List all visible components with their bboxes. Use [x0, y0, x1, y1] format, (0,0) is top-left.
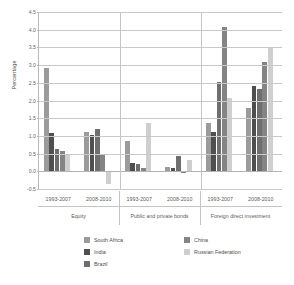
legend-label: Russian Federation	[194, 249, 241, 255]
gridline	[39, 118, 282, 119]
chart-legend: South AfricaIndiaBrazilChinaRussian Fede…	[84, 237, 274, 279]
y-axis-tick	[37, 47, 39, 48]
gridline	[39, 101, 282, 102]
period-label: 1993-2007	[200, 196, 241, 202]
plot-area: 4.54.03.53.02.52.01.51.00.50.0-0.5	[38, 12, 282, 189]
y-axis-tick	[37, 136, 39, 137]
legend-label: India	[94, 249, 106, 255]
category-labels-row: EquityPublic and private bondsForeign di…	[38, 206, 282, 225]
bar	[146, 123, 151, 171]
y-axis-tick-label: 2.0	[29, 98, 36, 103]
y-axis-tick	[37, 12, 39, 13]
bar	[106, 171, 111, 183]
legend-label: China	[194, 237, 208, 243]
period-label: 2008-2010	[79, 196, 120, 202]
y-axis-tick	[37, 101, 39, 102]
gridline	[39, 30, 282, 31]
y-axis-tick	[37, 118, 39, 119]
period-label: 2008-2010	[160, 196, 201, 202]
y-axis-tick-label: 3.0	[29, 63, 36, 68]
gridline	[39, 171, 282, 172]
bar	[136, 164, 141, 172]
bar-chart: Percentage 4.54.03.53.02.52.01.51.00.50.…	[0, 0, 294, 285]
y-axis-tick-label: 1.5	[29, 116, 36, 121]
category-label: Equity	[38, 213, 119, 219]
gridline	[39, 83, 282, 84]
bar	[84, 132, 89, 171]
bar	[217, 82, 222, 171]
legend-swatch-icon	[184, 249, 190, 255]
legend-item[interactable]: Brazil	[84, 261, 107, 267]
category-separator	[119, 207, 120, 225]
legend-swatch-icon	[84, 249, 90, 255]
y-axis-tick	[37, 65, 39, 66]
y-axis-tick	[37, 189, 39, 190]
gridline	[39, 189, 282, 190]
legend-swatch-icon	[84, 237, 90, 243]
category-separator	[120, 12, 121, 189]
bar	[65, 154, 70, 171]
y-axis-tick-label: 4.0	[29, 27, 36, 32]
category-separator	[201, 12, 202, 189]
y-axis-tick	[37, 171, 39, 172]
period-label: 1993-2007	[38, 196, 79, 202]
legend-label: South Africa	[94, 237, 123, 243]
period-label: 2008-2010	[241, 196, 282, 202]
bar	[100, 154, 105, 172]
bar	[55, 149, 60, 172]
y-axis-tick-label: 0.5	[29, 151, 36, 156]
bar	[49, 133, 54, 172]
legend-item[interactable]: China	[184, 237, 208, 243]
legend-item[interactable]: South Africa	[84, 237, 123, 243]
period-label: 1993-2007	[119, 196, 160, 202]
bar	[222, 27, 227, 171]
bar	[211, 132, 216, 171]
legend-item[interactable]: India	[84, 249, 106, 255]
legend-item[interactable]: Russian Federation	[184, 249, 241, 255]
bar	[125, 141, 130, 171]
category-label: Public and private bonds	[119, 213, 200, 219]
gridline	[39, 47, 282, 48]
bar	[262, 62, 267, 171]
y-axis-tick-label: 2.5	[29, 80, 36, 85]
category-label: Foreign direct investment	[200, 213, 281, 219]
y-axis-tick	[37, 83, 39, 84]
gridline	[39, 154, 282, 155]
bar	[206, 123, 211, 171]
y-axis-title: Percentage	[11, 25, 17, 125]
y-axis-tick	[37, 30, 39, 31]
y-axis-tick-label: 0.0	[29, 169, 36, 174]
y-axis-tick-label: 1.0	[29, 133, 36, 138]
legend-swatch-icon	[184, 237, 190, 243]
bar	[176, 156, 181, 171]
legend-swatch-icon	[84, 261, 90, 267]
y-axis-tick-label: 3.5	[29, 45, 36, 50]
legend-label: Brazil	[94, 261, 107, 267]
gridline	[39, 12, 282, 13]
bar	[246, 108, 251, 172]
gridline	[39, 136, 282, 137]
bar	[187, 160, 192, 171]
y-axis-tick-label: 4.5	[29, 10, 36, 15]
category-separator	[200, 207, 201, 225]
y-axis-tick	[37, 154, 39, 155]
bar	[130, 163, 135, 171]
y-axis-tick-label: -0.5	[27, 187, 36, 192]
gridline	[39, 65, 282, 66]
bar	[252, 86, 257, 171]
bar	[227, 98, 232, 172]
